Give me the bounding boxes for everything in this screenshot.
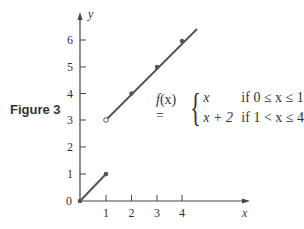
case-condition: if 1 < x ≤ 4 bbox=[241, 108, 304, 128]
segment-identity bbox=[80, 174, 106, 201]
formula-lhs: f(x) = bbox=[156, 92, 187, 124]
point-dot-icon bbox=[129, 91, 133, 95]
y-ticks bbox=[80, 40, 86, 174]
left-brace-icon: { bbox=[190, 88, 201, 128]
y-axis-label: y bbox=[87, 7, 94, 21]
x-tick-label: 2 bbox=[129, 206, 135, 220]
x-tick-label: 1 bbox=[103, 206, 109, 220]
point-dot-icon bbox=[180, 39, 184, 43]
y-tick-label: 3 bbox=[67, 113, 73, 127]
y-tick-label: 5 bbox=[67, 60, 73, 74]
y-axis-arrow-icon bbox=[78, 12, 83, 20]
y-tick-label: 1 bbox=[67, 167, 73, 181]
case-condition: if 0 ≤ x ≤ 1 bbox=[241, 88, 303, 108]
formula-case: x if 0 ≤ x ≤ 1 bbox=[203, 88, 304, 108]
y-tick-label: 2 bbox=[67, 140, 73, 154]
x-axis-label: x bbox=[241, 206, 248, 220]
formula-cases: x if 0 ≤ x ≤ 1 x + 2 if 1 < x ≤ 4 bbox=[203, 88, 304, 128]
function-arg: (x) = bbox=[156, 92, 176, 123]
x-axis-arrow-icon bbox=[242, 199, 250, 204]
closed-dot-icon bbox=[104, 172, 109, 177]
y-tick-label: 4 bbox=[67, 87, 73, 101]
x-tick-label: 3 bbox=[154, 206, 160, 220]
piecewise-formula: f(x) = { x if 0 ≤ x ≤ 1 x + 2 if 1 < x ≤… bbox=[156, 88, 304, 128]
origin-label: 0 bbox=[66, 194, 72, 208]
point-dot-icon bbox=[155, 65, 159, 69]
case-expression: x + 2 bbox=[203, 108, 241, 128]
x-tick-label: 4 bbox=[179, 206, 185, 220]
x-ticks bbox=[106, 195, 182, 201]
closed-dot-icon bbox=[78, 199, 83, 204]
case-expression: x bbox=[203, 88, 241, 108]
formula-case: x + 2 if 1 < x ≤ 4 bbox=[203, 108, 304, 128]
open-dot-icon bbox=[104, 118, 109, 123]
y-tick-label: 6 bbox=[67, 33, 73, 47]
